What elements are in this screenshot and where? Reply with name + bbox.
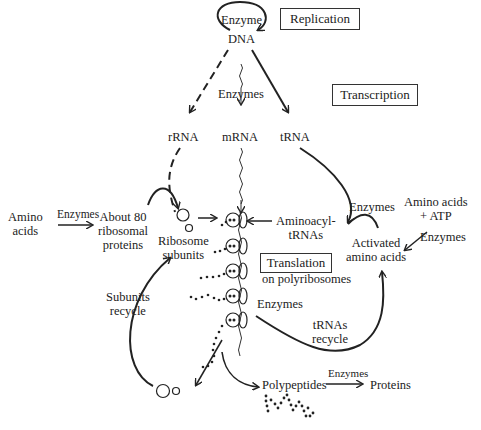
ribosome-subunits-label: Ribosomesubunits	[158, 234, 209, 262]
free-small-subunit	[173, 388, 180, 395]
transcription-enzymes-label: Enzymes	[218, 87, 264, 101]
small-subunit	[186, 225, 193, 232]
mrna-strand	[239, 212, 242, 356]
release-subunits-arrow	[196, 340, 222, 385]
translation-box: Translation	[260, 253, 332, 273]
large-subunit	[177, 209, 189, 221]
amino-acids-left-label: Aminoacids	[8, 210, 43, 238]
dna-to-trna-arrow	[252, 50, 288, 112]
mrna-wave	[240, 64, 243, 88]
enzyme-label: Enzyme	[221, 13, 262, 27]
trna-label: tRNA	[280, 130, 310, 144]
transcription-box: Transcription	[332, 84, 418, 106]
replication-box: Replication	[280, 8, 360, 30]
enzymes-right-label: Enzymes	[420, 230, 466, 244]
dna-label: DNA	[228, 32, 255, 46]
to-polypeptides-arrow	[222, 352, 258, 387]
protein-synthesis-diagram: Replication Transcription Translation En…	[0, 0, 481, 430]
subunits-recycle-label: Subunitsrecycle	[106, 290, 150, 318]
enzymes-middle-label: Enzymes	[257, 297, 303, 311]
transcription-label: Transcription	[340, 87, 410, 102]
proteins-label: Proteins	[370, 378, 411, 392]
trna-to-aminoacyl-arrow	[300, 148, 351, 222]
enzymes-bottom-label: Enzymes	[328, 366, 368, 380]
dna-to-rrna-arrow	[190, 50, 228, 112]
ribosomal-proteins-label: About 80ribosomalproteins	[98, 210, 148, 252]
trnas-recycle-label: tRNAsrecycle	[312, 318, 348, 346]
translation-label: Translation	[267, 255, 326, 270]
rrna-to-ribosome-arrow	[169, 148, 180, 212]
subunits-recycle-arrow	[130, 258, 170, 386]
activated-amino-acids-label: Activatedamino acids	[346, 236, 406, 264]
enzymes-right-top-label: Enzymes	[349, 200, 395, 214]
enzymes-left-label: Enzymes	[57, 207, 99, 221]
rrna-label: rRNA	[168, 130, 199, 144]
amino-acids-atp-label: Amino acids+ ATP	[404, 195, 468, 223]
aminoacyl-trnas-label: Aminoacyl-tRNAs	[276, 214, 336, 242]
free-large-subunit	[157, 385, 170, 398]
activated-to-aminoacyl-arrow	[348, 215, 378, 228]
on-polyribosomes-label: on polyribosomes	[262, 272, 351, 286]
polypeptides-label: Polypeptides	[262, 378, 327, 392]
mrna-label: mRNA	[222, 130, 258, 144]
replication-label: Replication	[290, 11, 350, 26]
